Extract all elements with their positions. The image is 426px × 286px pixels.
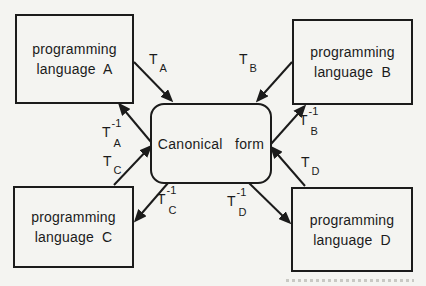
label-tc-sub: C [114, 165, 122, 176]
label-td: T D [301, 155, 320, 177]
arrow-ta-inverse [120, 105, 151, 142]
label-tb-inverse: T -1 B [299, 106, 318, 137]
label-tb-inverse-sub: B [311, 126, 318, 137]
label-td-inverse-base: T [227, 187, 236, 208]
label-ta-base: T [149, 52, 158, 66]
arrow-tb [258, 62, 292, 100]
diagram-canvas: programming language A programming langu… [0, 0, 426, 286]
label-tb-base: T [239, 52, 248, 66]
label-ta-sub: A [160, 63, 167, 74]
node-language-d-line2: language D [313, 230, 391, 250]
node-language-a: programming language A [15, 14, 134, 104]
label-ta-inverse-sup: -1 [112, 118, 122, 129]
label-ta-inverse-sub: A [114, 138, 121, 149]
label-tb-sub: B [250, 63, 257, 74]
label-tc-inverse: T -1 C [157, 185, 177, 216]
label-ta: T A [149, 52, 167, 74]
node-language-d: programming language D [291, 187, 413, 272]
node-canonical-form: Canonical form [150, 103, 272, 184]
label-tc-inverse-base: T [157, 185, 166, 206]
label-tc-inverse-sup: -1 [167, 185, 177, 196]
arrow-td-inverse [249, 183, 289, 222]
node-language-a-line2: language A [36, 59, 112, 79]
node-language-b-line1: programming [310, 42, 395, 62]
node-language-b: programming language B [292, 19, 413, 105]
label-td-sub: D [312, 166, 320, 177]
label-tc-inverse-sub: C [169, 205, 177, 216]
label-td-inverse: T -1 D [227, 187, 247, 218]
label-tb-inverse-sup: -1 [309, 106, 319, 117]
label-td-inverse-sup: -1 [237, 187, 247, 198]
label-tb: T B [239, 52, 257, 74]
label-ta-inverse-base: T [102, 118, 111, 139]
node-language-c-line2: language C [35, 227, 113, 247]
node-canonical-form-label: Canonical form [158, 136, 264, 152]
node-language-a-line1: programming [32, 39, 117, 59]
label-tc-base: T [103, 154, 112, 168]
label-td-inverse-sub: D [239, 207, 247, 218]
label-tc: T C [103, 154, 122, 176]
label-td-base: T [301, 155, 310, 169]
node-language-d-line1: programming [310, 210, 395, 230]
node-language-c-line1: programming [31, 207, 116, 227]
label-tb-inverse-base: T [299, 106, 308, 127]
label-ta-inverse: T -1 A [102, 118, 121, 149]
node-language-b-line2: language B [314, 62, 391, 82]
node-language-c: programming language C [13, 186, 134, 268]
